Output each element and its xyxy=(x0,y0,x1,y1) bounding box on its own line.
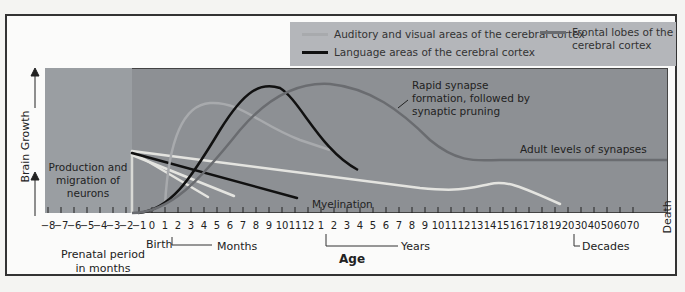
x-tick-label: 8 xyxy=(409,220,415,231)
x-tick-label: 17 xyxy=(523,220,536,231)
x-tick-label: 9 xyxy=(266,220,272,231)
x-tick-label: 6 xyxy=(383,220,389,231)
annotation-synapse: Rapid synapse formation, followed by syn… xyxy=(412,79,530,118)
x-tick-label: 12 xyxy=(302,220,315,231)
x-tick-label: 5 xyxy=(370,220,376,231)
prenatal-label: Prenatal period in months xyxy=(58,248,148,276)
x-tick-label: 70 xyxy=(627,220,640,231)
x-tick-label: 10 xyxy=(276,220,289,231)
x-tick-label: 4 xyxy=(201,220,207,231)
x-tick-label: 5 xyxy=(214,220,220,231)
x-tick-label: 7 xyxy=(240,220,246,231)
x-tick-label: 13 xyxy=(471,220,484,231)
x-tick-label: 4 xyxy=(357,220,363,231)
x-tick-label: 3 xyxy=(344,220,350,231)
x-tick-label: 19 xyxy=(549,220,562,231)
x-tick-label: 12 xyxy=(458,220,471,231)
x-tick-label: 7 xyxy=(396,220,402,231)
x-tick-label: 8 xyxy=(253,220,259,231)
years-label: Years xyxy=(401,240,430,253)
y-axis-label: Brain Growth xyxy=(16,90,36,220)
months-label: Months xyxy=(217,240,257,253)
annotation-myelination: Myelination xyxy=(312,198,373,211)
x-tick-label: 11 xyxy=(289,220,302,231)
x-tick-label: 3 xyxy=(188,220,194,231)
x-tick-label: 0 xyxy=(149,220,155,231)
death-label: Death xyxy=(661,204,674,234)
x-tick-label: 10 xyxy=(432,220,445,231)
birth-label: Birth xyxy=(146,238,172,251)
x-tick-label: 18 xyxy=(536,220,549,231)
x-tick-label: 2 xyxy=(331,220,337,231)
x-tick-label: 2 xyxy=(175,220,181,231)
x-tick-label: 20 xyxy=(562,220,575,231)
x-tick-label: 40 xyxy=(588,220,601,231)
x-tick-label: 60 xyxy=(614,220,627,231)
x-tick-label: 14 xyxy=(484,220,497,231)
x-tick-label: 1 xyxy=(318,220,324,231)
x-tick-label: 9 xyxy=(422,220,428,231)
x-tick-label: 50 xyxy=(601,220,614,231)
x-axis-title: Age xyxy=(339,252,365,266)
x-tick-label: 15 xyxy=(497,220,510,231)
x-tick-label: 1 xyxy=(162,220,168,231)
x-tick-label: −1 xyxy=(132,220,147,231)
x-tick-label: 11 xyxy=(445,220,458,231)
x-tick-label: 30 xyxy=(575,220,588,231)
annotation-neurons: Production and migration of neurons xyxy=(48,161,128,200)
annotation-adult: Adult levels of synapses xyxy=(520,143,647,156)
x-tick-label: 16 xyxy=(510,220,523,231)
x-tick-label: 6 xyxy=(227,220,233,231)
decades-label: Decades xyxy=(582,240,630,253)
